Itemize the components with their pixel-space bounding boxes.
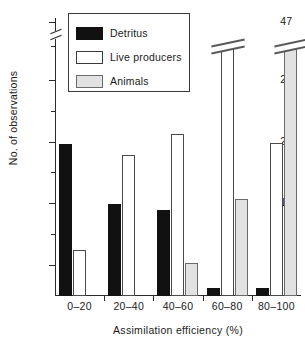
black-swatch-icon — [76, 27, 103, 40]
y-axis-title: No. of observations — [7, 43, 19, 193]
bar-break-mark — [274, 40, 305, 56]
bar-producers — [171, 134, 184, 296]
bar-break-mark — [211, 40, 245, 56]
bar-detritus — [108, 204, 121, 296]
bar-animals — [235, 199, 248, 296]
legend-label: Detritus — [110, 27, 148, 39]
bar-detritus — [59, 144, 72, 296]
bar-detritus — [157, 210, 170, 296]
legend-item-detritus: Detritus — [76, 21, 189, 45]
bar-group — [252, 18, 301, 296]
x-axis-title: Assimilation efficiency (%) — [55, 324, 301, 336]
white-swatch-icon — [76, 51, 103, 64]
x-axis-tick-label: 20–40 — [104, 300, 153, 312]
bar-producers — [122, 155, 135, 296]
legend-item-live-producers: Live producers — [76, 45, 189, 69]
bar-detritus — [207, 288, 220, 296]
bar-producers — [73, 250, 86, 296]
bar-group — [203, 18, 252, 296]
legend-label: Animals — [110, 75, 149, 87]
gray-swatch-icon — [76, 75, 103, 88]
bar-chart-figure: No. of observations 412202847 0–2020–404… — [0, 0, 305, 346]
bar-animals — [284, 46, 297, 296]
bar-producers — [270, 143, 283, 296]
x-axis-tick-label: 80–100 — [252, 300, 301, 312]
x-axis-tick-label: 0–20 — [55, 300, 104, 312]
x-axis-tick-label: 40–60 — [153, 300, 202, 312]
legend-item-animals: Animals — [76, 69, 189, 93]
x-axis-tick-label: 60–80 — [203, 300, 252, 312]
legend-label: Live producers — [110, 51, 182, 63]
bar-detritus — [256, 288, 269, 296]
bar-animals — [185, 263, 198, 296]
bar-producers — [221, 46, 234, 296]
chart-legend: Detritus Live producers Animals — [68, 13, 190, 92]
